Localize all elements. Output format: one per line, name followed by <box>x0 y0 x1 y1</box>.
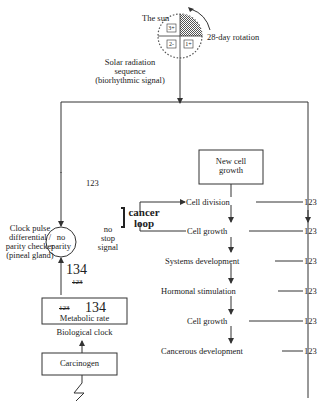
new-code-134: 134 <box>66 263 87 277</box>
stage-cell-growth-2: Cell growth <box>187 317 227 326</box>
signal-label: Solar radiationsequence(biorhythmic sign… <box>80 58 180 85</box>
quadrant-3: 3+ <box>167 24 176 33</box>
quadrant-2: 2- <box>167 40 176 49</box>
stage-cell-division: Cell division <box>186 198 230 207</box>
code-row-1: 123 <box>304 198 317 207</box>
metabolic-rate-label: Metabolic rate <box>42 314 127 323</box>
clock-crossed-code: 123 <box>59 304 70 313</box>
stage-systems-development: Systems development <box>165 257 239 266</box>
code-row-5: 123 <box>304 317 317 326</box>
code-row-4: 123 <box>304 287 317 296</box>
parity-circle-text: noparity <box>46 233 76 251</box>
crossed-code: 123 <box>72 278 83 287</box>
cancer-loop-label: cancerloop <box>126 207 162 229</box>
sun-label: The sun <box>142 14 169 23</box>
no-stop-signal: nostopsignal <box>96 225 120 252</box>
stage-cell-growth: Cell growth <box>187 227 227 236</box>
stage-cancerous-development: Cancerous development <box>161 347 243 356</box>
code-row-2: 123 <box>304 227 317 236</box>
left-code: 123 <box>86 179 99 188</box>
biological-clock-caption: Biological clock <box>42 328 127 337</box>
carcinogen-label: Carcinogen <box>42 359 117 368</box>
code-row-3: 123 <box>304 257 317 266</box>
stage-hormonal-stimulation: Hormonal stimulation <box>161 287 236 296</box>
new-cell-growth-label: New cellgrowth <box>199 157 263 175</box>
quadrant-1: 1+ <box>184 40 193 49</box>
rotation-label: 28-day rotation <box>207 33 259 42</box>
code-row-6: 123 <box>304 347 317 356</box>
